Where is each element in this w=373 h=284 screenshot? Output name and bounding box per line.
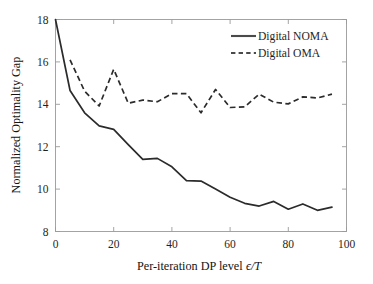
x-tick-label-0: 0 [53,238,59,250]
y-axis-title: Normalized Optimality Gap [9,57,23,194]
legend-label-digital-noma: Digital NOMA [258,30,329,43]
legend-label-digital-oma: Digital OMA [258,47,321,60]
chart-figure: 020406080100 81012141618 Digital NOMADig… [0,0,373,284]
svg-text:Per-iteration DP level: Per-iteration DP level [137,259,243,273]
y-tick-label-8: 8 [43,226,49,238]
y-tick-label-12: 12 [37,141,49,153]
x-tick-label-80: 80 [283,238,295,250]
y-tick-label-14: 14 [37,98,49,110]
y-tick-label-10: 10 [37,183,49,195]
y-tick-label-18: 18 [37,14,49,26]
svg-text:ϵ/T: ϵ/T [246,259,262,273]
y-tick-label-16: 16 [37,56,49,68]
x-tick-label-100: 100 [338,238,356,250]
svg-text:Normalized Optimality Gap: Normalized Optimality Gap [9,57,23,194]
chart-svg: 020406080100 81012141618 Digital NOMADig… [0,0,373,284]
x-tick-label-20: 20 [108,238,120,250]
x-tick-label-40: 40 [166,238,178,250]
x-tick-label-60: 60 [224,238,236,250]
